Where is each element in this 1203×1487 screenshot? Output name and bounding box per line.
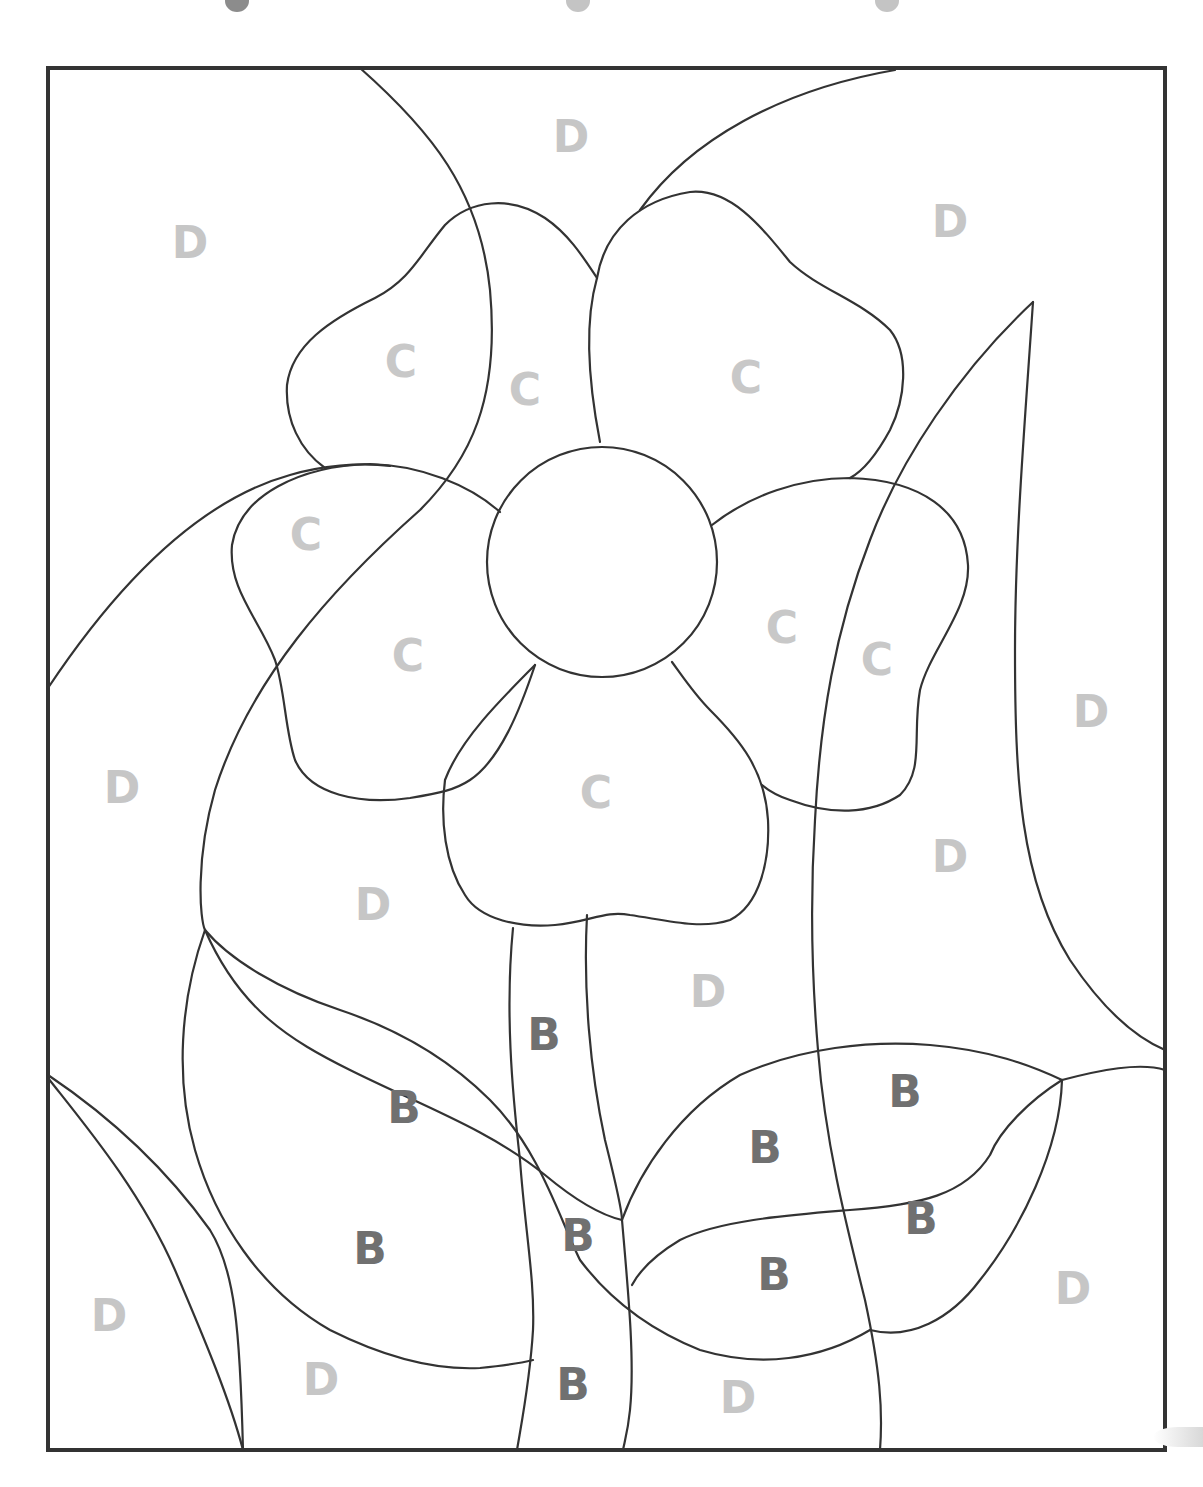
picture-frame [48,68,1165,1450]
region-label-d: D [720,1376,757,1420]
region-label-d: D [355,883,392,927]
region-label-c: C [766,606,798,650]
region-label-d: D [553,115,590,159]
region-label-b: B [757,1253,791,1297]
region-label-b: B [888,1070,922,1114]
region-label-d: D [932,200,969,244]
region-label-c: C [385,340,417,384]
flower-center [487,447,717,677]
region-label-b: B [527,1013,561,1057]
region-label-c: C [861,638,893,682]
region-label-b: B [748,1126,782,1170]
region-label-d: D [932,835,969,879]
region-label-c: C [392,634,424,678]
region-label-b: B [561,1214,595,1258]
region-label-b: B [904,1197,938,1241]
region-label-d: D [1055,1267,1092,1311]
region-label-d: D [1073,690,1110,734]
region-label-d: D [91,1294,128,1338]
region-label-b: B [353,1227,387,1271]
region-label-d: D [303,1358,340,1402]
page-curl-shadow [1153,1427,1203,1447]
region-label-d: D [172,221,209,265]
region-label-b: B [556,1363,590,1407]
region-label-c: C [509,368,541,412]
region-label-c: C [730,356,762,400]
region-label-d: D [690,970,727,1014]
region-label-c: C [580,771,612,815]
region-label-b: B [387,1086,421,1130]
region-label-d: D [104,766,141,810]
region-label-c: C [290,513,322,557]
